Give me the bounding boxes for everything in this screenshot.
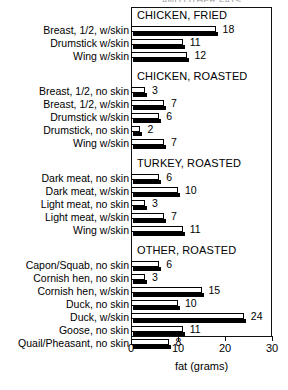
bar-value-label: 6 (166, 259, 172, 270)
bar-row: Capon/Squab, no skin6 (0, 259, 288, 272)
bar (131, 52, 190, 63)
bar-shadow (133, 45, 185, 49)
bar (131, 226, 186, 237)
bar-value-label: 7 (171, 98, 177, 109)
bar-shadow (133, 93, 147, 97)
bar (131, 274, 148, 285)
x-axis-tick (131, 336, 132, 341)
bar (131, 39, 186, 50)
bar-shadow (133, 332, 185, 336)
bar-shadow (133, 280, 147, 284)
category-label: Quail/Pheasant, no skin (18, 337, 129, 350)
bar-shadow (133, 345, 171, 349)
bar-value-label: 24 (251, 311, 263, 322)
x-axis-tick-label: 20 (219, 342, 231, 355)
bar-value-label: 3 (152, 272, 158, 283)
category-label: Breast, 1/2, w/skin (43, 98, 129, 111)
bar-shadow (133, 58, 189, 62)
group-header-row: OTHER, ROASTED (0, 242, 288, 259)
x-axis-tick (272, 336, 273, 341)
bar (131, 213, 167, 224)
bar-row: Light meat, w/skin7 (0, 211, 288, 224)
bar-row: Breast, 1/2, no skin3 (0, 85, 288, 98)
bar (131, 100, 167, 111)
category-label: Duck, w/skin (70, 311, 129, 324)
category-label: Breast, 1/2, w/skin (43, 24, 129, 37)
bar-row: Duck, no skin10 (0, 298, 288, 311)
x-axis-tick-label: 0 (128, 342, 134, 355)
bar (131, 187, 181, 198)
x-axis-tick (225, 336, 226, 341)
group-header-row: CHICKEN, ROASTED (0, 68, 288, 85)
bar-shadow (133, 193, 180, 197)
category-label: Drumstick, no skin (43, 124, 129, 137)
bar-row: Wing w/skin12 (0, 50, 288, 63)
category-label: Duck, no skin (66, 298, 129, 311)
fat-content-bar-chart: AND OTHER FATS CHICKEN, FRIEDBreast, 1/2… (0, 0, 288, 390)
chart-rows: CHICKEN, FRIEDBreast, 1/2, w/skin18Drums… (0, 7, 288, 350)
x-axis-tick-label: 10 (172, 342, 184, 355)
bar-row: Drumstick, no skin2 (0, 124, 288, 137)
bar-value-label: 10 (185, 298, 197, 309)
bar-row: Drumstick w/skin11 (0, 37, 288, 50)
category-label: Light meat, w/skin (45, 211, 129, 224)
bar (131, 174, 162, 185)
bar-row: Wing w/skin11 (0, 224, 288, 237)
bar-value-label: 12 (194, 50, 206, 61)
category-label: Wing w/skin (73, 224, 129, 237)
bar-value-label: 2 (147, 124, 153, 135)
group-header-label: TURKEY, ROASTED (137, 156, 241, 171)
category-label: Cornish hen, no skin (33, 272, 129, 285)
bar-shadow (133, 232, 185, 236)
category-label: Dark meat, w/skin (46, 185, 129, 198)
bar-value-label: 3 (152, 198, 158, 209)
bar-value-label: 7 (171, 211, 177, 222)
category-label: Capon/Squab, no skin (26, 259, 129, 272)
bar (131, 87, 148, 98)
category-label: Goose, no skin (59, 324, 129, 337)
bar-shadow (133, 106, 166, 110)
bar-row: Breast, 1/2, w/skin18 (0, 24, 288, 37)
x-axis-tick-label: 30 (266, 342, 278, 355)
x-axis-title: fat (grams) (131, 360, 272, 372)
group-header-label: OTHER, ROASTED (137, 243, 236, 258)
bar-row: Light meat, no skin3 (0, 198, 288, 211)
bar-value-label: 6 (166, 172, 172, 183)
bar (131, 26, 219, 37)
bar-shadow (133, 132, 142, 136)
bar-shadow (133, 293, 204, 297)
bar-value-label: 3 (152, 85, 158, 96)
bar (131, 339, 172, 350)
bar-row: Quail/Pheasant, no skin8 (0, 337, 288, 350)
category-label: Cornish hen, w/skin (37, 285, 129, 298)
bar-shadow (133, 219, 166, 223)
bar-shadow (133, 180, 161, 184)
category-label: Wing w/skin (73, 137, 129, 150)
bar (131, 287, 205, 298)
bar-shadow (133, 32, 218, 36)
bar (131, 313, 247, 324)
bar-row: Wing w/skin7 (0, 137, 288, 150)
bar (131, 200, 148, 211)
clipped-chart-title: AND OTHER FATS (131, 0, 272, 2)
x-axis-line (131, 336, 272, 337)
bar-row: Dark meat, no skin6 (0, 172, 288, 185)
bar-shadow (133, 145, 166, 149)
bar-row: Duck, w/skin24 (0, 311, 288, 324)
bar (131, 326, 186, 337)
bar (131, 113, 162, 124)
bar-value-label: 15 (209, 285, 221, 296)
group-header-label: CHICKEN, ROASTED (137, 69, 247, 84)
bar-shadow (133, 206, 147, 210)
group-header-row: TURKEY, ROASTED (0, 155, 288, 172)
category-label: Breast, 1/2, no skin (39, 85, 129, 98)
bar (131, 261, 162, 272)
bar-row: Drumstick w/skin6 (0, 111, 288, 124)
bar-shadow (133, 306, 180, 310)
bar (131, 139, 167, 150)
bar-row: Breast, 1/2, w/skin7 (0, 98, 288, 111)
bar-value-label: 6 (166, 111, 172, 122)
category-label: Drumstick w/skin (50, 111, 129, 124)
bar-value-label: 18 (223, 24, 235, 35)
category-label: Light meat, no skin (41, 198, 129, 211)
